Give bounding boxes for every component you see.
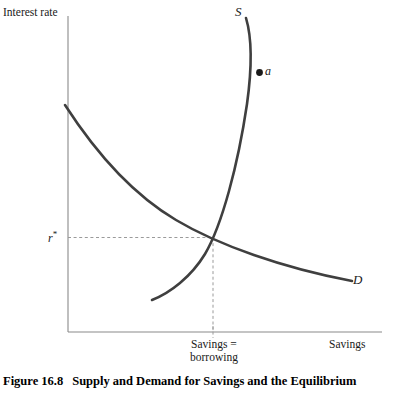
- supply-curve: [152, 18, 251, 300]
- figure-caption-number: Figure 16.8: [3, 374, 63, 388]
- figure-caption-text: Supply and Demand for Savings and the Eq…: [72, 374, 356, 388]
- equilibrium-quantity-line-2: borrowing: [190, 351, 238, 363]
- equilibrium-quantity-line-1: Savings =: [191, 338, 237, 350]
- x-axis-label: Savings: [329, 338, 365, 351]
- demand-curve: [65, 105, 352, 281]
- equilibrium-quantity-label: Savings =borrowing: [190, 338, 238, 364]
- demand-curve-label: D: [353, 273, 362, 288]
- equilibrium-rate-label: r*: [48, 229, 57, 245]
- supply-curve-label: S: [235, 5, 242, 20]
- y-axis-label: Interest rate: [3, 6, 58, 19]
- point-a-label: a: [265, 65, 271, 78]
- figure-caption: Figure 16.8Supply and Demand for Savings…: [3, 374, 356, 389]
- supply-demand-plot: [0, 0, 406, 394]
- point-a-marker: [256, 69, 263, 76]
- figure-container: Interest rate S a D r* Savings =borrowin…: [0, 0, 406, 394]
- equilibrium-rate-star: *: [53, 229, 58, 239]
